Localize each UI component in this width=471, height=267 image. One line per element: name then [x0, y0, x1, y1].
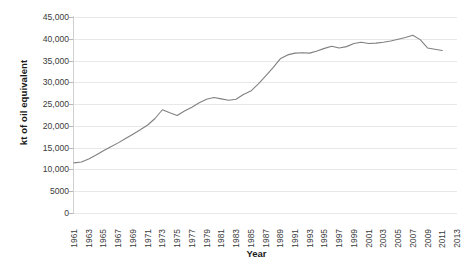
x-axis-tick-label: 1993 [306, 229, 314, 248]
y-axis-tick-label: 15,000 [17, 143, 69, 153]
x-axis-tick-label: 1973 [158, 229, 166, 248]
plot-area [74, 17, 457, 213]
y-axis-tick-label: 35,000 [17, 56, 69, 66]
x-axis-tick-label: 1987 [262, 229, 270, 248]
x-axis-tick-label: 1961 [70, 229, 78, 248]
y-axis-tick-label: 45,000 [17, 12, 69, 22]
y-axis-tick-label: 5000 [17, 186, 69, 196]
x-axis-tick-label: 1995 [320, 229, 328, 248]
series-line-energy-use [74, 17, 457, 213]
x-axis-tick-label: 1989 [276, 229, 284, 248]
x-axis-tick-label: 2005 [394, 229, 402, 248]
x-axis-tick-label: 1983 [232, 229, 240, 248]
x-axis-tick-label: 2007 [409, 229, 417, 248]
x-axis-tick-label: 2003 [379, 229, 387, 248]
x-axis-tick-label: 1967 [114, 229, 122, 248]
line-chart: kt of oil equivalent 45,00040,00035,0003… [0, 0, 471, 267]
y-axis-tick-label: 0 [17, 208, 69, 218]
x-axis-tick-label: 1963 [85, 229, 93, 248]
x-axis-tick-label: 1965 [99, 229, 107, 248]
y-axis-tick-label: 40,000 [17, 34, 69, 44]
x-axis-title: Year [0, 248, 471, 259]
y-axis-tick-label: 30,000 [17, 77, 69, 87]
x-axis-tick-label: 1975 [173, 229, 181, 248]
y-axis-tick-label: 25,000 [17, 99, 69, 109]
x-axis-tick-label: 2011 [438, 230, 446, 248]
x-axis-tick-label: 1991 [291, 229, 299, 248]
x-axis-tick-label: 1985 [247, 229, 255, 248]
y-axis-tick-label: 20,000 [17, 121, 69, 131]
x-axis-tick-label: 1969 [129, 229, 137, 248]
x-axis-tick-label: 1971 [144, 229, 152, 248]
x-axis-tick-label: 1997 [335, 229, 343, 248]
x-axis-tick-label: 1977 [188, 229, 196, 248]
x-axis-tick-label: 2013 [453, 229, 461, 248]
x-axis-tick-label: 1999 [350, 229, 358, 248]
y-axis-ticks: 45,00040,00035,00030,00025,00020,00015,0… [0, 17, 69, 213]
y-axis-tick-label: 10,000 [17, 164, 69, 174]
x-axis-ticks: 1961196319651967196919711973197519771979… [74, 214, 457, 248]
x-axis-tick-label: 2001 [365, 229, 373, 248]
x-axis-tick-label: 1979 [203, 229, 211, 248]
x-axis-tick-label: 1981 [217, 229, 225, 248]
x-axis-tick-label: 2009 [424, 229, 432, 248]
